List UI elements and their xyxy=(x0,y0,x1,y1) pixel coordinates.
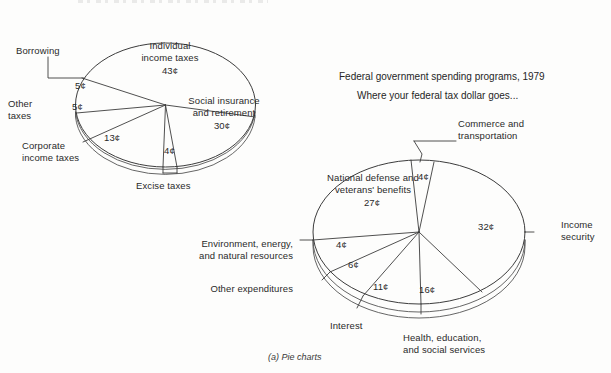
left-leader-borrowing xyxy=(48,57,84,78)
right-leader-commerce xyxy=(414,141,422,162)
left-value-borrowing: 5¢ xyxy=(75,80,86,92)
spending-heading-line1: Federal government spending programs, 19… xyxy=(339,70,545,83)
right-pie-side-wall xyxy=(313,240,525,318)
right-label-interest: Interest xyxy=(330,320,362,332)
left-value-individual-income-taxes: 43¢ xyxy=(138,65,202,77)
spending-heading-line2: Where your federal tax dollar goes... xyxy=(357,89,518,102)
right-value-environment-energy: 4¢ xyxy=(336,239,347,251)
left-value-other-taxes: 5¢ xyxy=(72,101,83,113)
right-value-interest: 11¢ xyxy=(373,281,388,293)
left-slice-divider-excise-corporate xyxy=(163,105,166,167)
left-label-other-taxes: Other taxes xyxy=(8,98,32,121)
pie-charts-vector-layer xyxy=(0,0,611,373)
left-slice-divider-corporate-othertaxes xyxy=(83,105,166,142)
right-value-income-security: 32¢ xyxy=(478,221,494,233)
left-slice-divider-borrowing-individual xyxy=(82,78,166,105)
right-pie-depth-edge xyxy=(313,240,525,312)
right-label-income-security: Income security xyxy=(561,219,595,242)
figure-caption: (a) Pie charts xyxy=(268,352,322,362)
left-slice-divider-othertaxes-borrowing xyxy=(77,105,166,113)
right-value-health-education: 16¢ xyxy=(419,284,435,296)
right-label-environment-energy: Environment, energy, and natural resourc… xyxy=(155,238,293,261)
left-label-corporate-income-taxes: Corporate income taxes xyxy=(22,140,79,163)
left-value-social-insurance: 30¢ xyxy=(190,120,254,132)
left-value-excise-taxes: 4¢ xyxy=(164,145,175,157)
right-leader-otherexp xyxy=(322,272,330,280)
right-value-national-defense: 27¢ xyxy=(340,197,404,209)
right-slice-divider-income-health xyxy=(419,232,482,292)
right-label-health-education: Health, education, and social services xyxy=(403,332,485,355)
right-label-commerce-transportation: Commerce and transportation xyxy=(458,118,524,141)
right-slice-divider-interest-otherexp xyxy=(363,232,419,296)
left-label-borrowing: Borrowing xyxy=(16,45,60,57)
left-label-social-insurance: Social insurance and retirement xyxy=(175,95,273,118)
left-value-corporate-income-taxes: 13¢ xyxy=(104,132,120,144)
left-label-excise-taxes: Excise taxes xyxy=(136,180,191,192)
right-label-national-defense: National defense and veterans' benefits xyxy=(318,172,428,195)
right-value-other-expenditures: 6¢ xyxy=(348,259,359,271)
right-label-other-expenditures: Other expenditures xyxy=(175,283,293,295)
left-label-individual-income-taxes: Individual income taxes xyxy=(127,40,213,63)
figure-canvas: Federal government spending programs, 19… xyxy=(0,0,611,373)
right-pie-group xyxy=(300,141,534,318)
